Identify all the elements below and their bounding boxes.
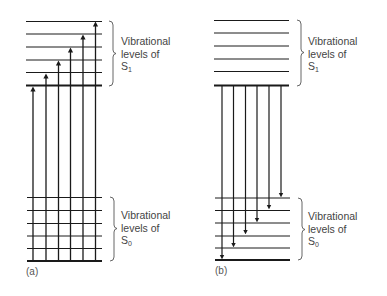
s0-state-name-b: S0 xyxy=(308,235,319,248)
brace-icon xyxy=(110,197,117,261)
s1-caption-line1-b: Vibrational xyxy=(308,35,357,47)
s1-caption-line2-b: levels of xyxy=(308,48,347,60)
s0-caption-line1-b: Vibrational xyxy=(308,210,357,222)
s1-caption-line1-a: Vibrational xyxy=(121,35,170,47)
brace-icon xyxy=(109,21,116,86)
s1-state-name-a: S1 xyxy=(121,60,132,73)
s1-levels-a xyxy=(26,22,102,86)
panel-b: Vibrational levels of S1 Vibrational lev… xyxy=(214,20,357,276)
s0-caption-line2-b: levels of xyxy=(308,223,347,235)
panel-label-a: (a) xyxy=(26,266,38,277)
s1-state-name-b: S1 xyxy=(308,60,319,73)
jablonski-diagram: Vibrational levels of S1 Vibrational lev… xyxy=(0,0,387,296)
s1-caption-line2-a: levels of xyxy=(121,48,160,60)
brace-icon xyxy=(298,198,305,260)
s0-levels-b xyxy=(215,198,290,260)
s0-levels-a xyxy=(27,198,102,262)
brace-icon xyxy=(297,20,304,86)
s1-levels-b xyxy=(214,21,289,86)
s0-caption-line2-a: levels of xyxy=(121,222,160,234)
panel-label-b: (b) xyxy=(215,265,227,276)
s0-state-name-a: S0 xyxy=(121,234,132,247)
panel-a: Vibrational levels of S1 Vibrational lev… xyxy=(26,21,170,277)
s0-caption-line1-a: Vibrational xyxy=(121,209,170,221)
emission-arrows xyxy=(222,86,281,257)
